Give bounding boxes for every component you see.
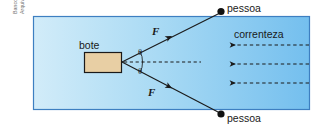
- physics-diagram-figure: Banco de imagens/ Arquivo da editora bot…: [0, 0, 329, 127]
- image-credit-line-1: Banco de imagens/: [12, 0, 19, 14]
- image-credit: Banco de imagens/ Arquivo da editora: [12, 0, 26, 14]
- force-label-bottom: F: [148, 86, 155, 98]
- boat-shape: [85, 53, 122, 73]
- image-credit-line-2: Arquivo da editora: [19, 0, 26, 14]
- current-label: correnteza: [234, 28, 284, 40]
- angle-label-bottom: θ: [138, 66, 142, 76]
- person-marker-top: [217, 8, 224, 15]
- diagram-canvas: [0, 0, 329, 127]
- force-label-top: F: [152, 25, 159, 37]
- boat-label: bote: [79, 39, 99, 51]
- angle-label-top: θ: [138, 47, 142, 57]
- person-marker-bottom: [217, 110, 224, 117]
- person-label-bottom: pessoa: [227, 112, 261, 124]
- person-label-top: pessoa: [227, 2, 261, 14]
